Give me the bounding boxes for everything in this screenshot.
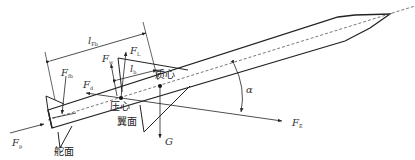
l-fb-label: lFb bbox=[88, 35, 98, 47]
f-w-label: Fw bbox=[101, 53, 114, 65]
f-l-label: FL bbox=[129, 45, 141, 57]
g-label: G bbox=[165, 136, 173, 147]
rudder-label: 舵面 bbox=[54, 145, 74, 157]
alpha-label: α bbox=[246, 84, 253, 95]
f-p-label: Fp bbox=[11, 137, 22, 150]
rocket-body bbox=[48, 14, 390, 128]
f-d-label: Fd bbox=[82, 79, 94, 91]
f-fb-label: Ffb bbox=[60, 67, 73, 79]
center-of-mass-label: 质心 bbox=[155, 69, 175, 80]
wing-label: 翼面 bbox=[117, 116, 137, 127]
f-e-label: FE bbox=[291, 117, 303, 129]
l-b-label: lb bbox=[130, 63, 136, 75]
center-of-pressure-label: 压心 bbox=[110, 101, 130, 112]
rocket-diagram: lFb lb FL Fw Ffb Fd Fp G FE α 质心 压心 翼面 舵… bbox=[0, 0, 415, 160]
